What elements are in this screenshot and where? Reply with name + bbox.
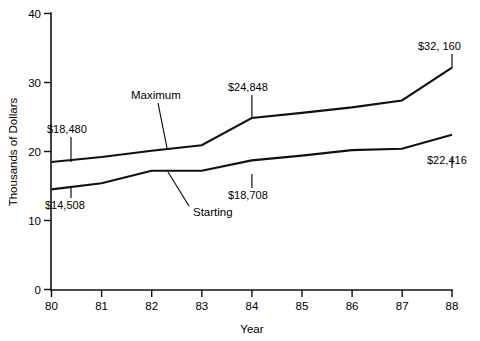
y-tick-label-30: 30 bbox=[28, 77, 41, 89]
value-label-start-mid: $18,708 bbox=[228, 189, 268, 201]
x-tick-label-82: 82 bbox=[145, 300, 158, 312]
x-tick-label-87: 87 bbox=[396, 300, 409, 312]
value-label-max-end: $32, 160 bbox=[418, 40, 461, 52]
y-tick-label-20: 20 bbox=[28, 146, 41, 158]
value-label-start-start: $14,508 bbox=[45, 199, 85, 211]
chart-container: 40 30 20 10 0 80 81 82 83 84 85 86 87 88… bbox=[0, 0, 480, 341]
series-label-maximum: Maximum bbox=[131, 89, 181, 101]
x-tick-label-85: 85 bbox=[296, 300, 309, 312]
value-label-start-end: $22,416 bbox=[427, 154, 467, 166]
y-axis-title: Thousands of Dollars bbox=[7, 97, 19, 206]
x-tick-label-83: 83 bbox=[195, 300, 208, 312]
series-label-starting: Starting bbox=[193, 206, 233, 218]
y-axis-ticks bbox=[44, 14, 51, 290]
x-tick-label-88: 88 bbox=[446, 300, 459, 312]
x-axis-title: Year bbox=[240, 323, 263, 335]
x-tick-label-84: 84 bbox=[246, 300, 259, 312]
value-label-max-start: $18,480 bbox=[47, 123, 87, 135]
y-tick-label-40: 40 bbox=[28, 8, 41, 20]
y-tick-label-0: 0 bbox=[35, 284, 41, 296]
leader-line-label-maximum bbox=[158, 103, 167, 148]
leader-line-label-starting bbox=[168, 172, 189, 206]
line-chart: 40 30 20 10 0 80 81 82 83 84 85 86 87 88… bbox=[0, 0, 480, 341]
x-tick-label-81: 81 bbox=[95, 300, 108, 312]
y-tick-label-10: 10 bbox=[28, 215, 41, 227]
x-tick-label-86: 86 bbox=[346, 300, 359, 312]
x-axis-ticks bbox=[52, 290, 453, 297]
value-label-max-mid: $24,848 bbox=[228, 81, 268, 93]
x-tick-label-80: 80 bbox=[45, 300, 58, 312]
